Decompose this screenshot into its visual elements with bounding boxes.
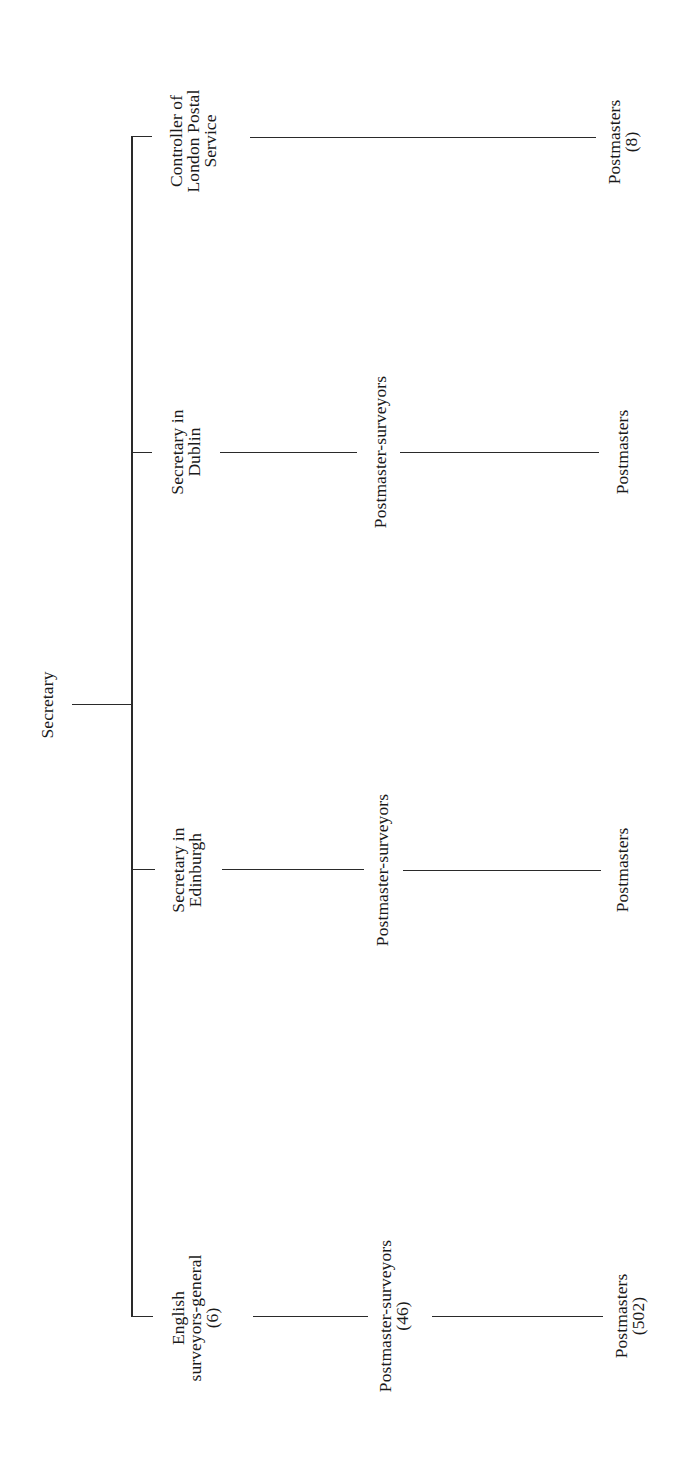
node-english-surveyors-general: English surveyors-general (6) bbox=[170, 1254, 221, 1381]
node-secretary-edinburgh: Secretary in Edinburgh bbox=[170, 827, 204, 912]
node-postmaster-surveyors-dublin: Postmaster-surveyors bbox=[372, 376, 389, 528]
trunk-line bbox=[131, 136, 133, 1317]
connector-secretary-to-trunk bbox=[72, 704, 132, 705]
node-secretary: Secretary bbox=[39, 672, 56, 739]
node-line: Service bbox=[202, 90, 219, 193]
connector-edinburgh-to-surveyors bbox=[222, 869, 364, 870]
node-postmasters-english: Postmasters (502) bbox=[613, 1274, 647, 1359]
node-line: Postmaster-surveyors bbox=[372, 376, 389, 528]
tick-edinburgh bbox=[131, 869, 155, 870]
node-line: Postmaster-surveyors bbox=[374, 794, 391, 946]
connector-dublin-surveyors-to-postmasters bbox=[400, 452, 599, 453]
node-postmaster-surveyors-edinburgh: Postmaster-surveyors bbox=[374, 794, 391, 946]
node-line: (46) bbox=[394, 1240, 411, 1392]
connector-dublin-to-surveyors bbox=[220, 452, 357, 453]
connector-london-to-postmasters bbox=[250, 137, 596, 138]
node-secretary-dublin: Secretary in Dublin bbox=[169, 409, 203, 494]
org-chart-diagram: Secretary Controller of London Postal Se… bbox=[0, 0, 697, 1459]
node-line: Postmasters bbox=[614, 828, 631, 913]
tick-dublin bbox=[131, 452, 152, 453]
node-line: Postmasters bbox=[614, 410, 631, 495]
tick-london bbox=[131, 136, 152, 137]
node-controller-london: Controller of London Postal Service bbox=[168, 90, 219, 193]
connector-english-to-surveyors bbox=[253, 1316, 368, 1317]
node-line: (8) bbox=[623, 100, 640, 185]
node-secretary-label: Secretary bbox=[39, 672, 56, 739]
node-postmaster-surveyors-english: Postmaster-surveyors (46) bbox=[377, 1240, 411, 1392]
node-line: Dublin bbox=[186, 409, 203, 494]
node-postmasters-london: Postmasters (8) bbox=[606, 100, 640, 185]
connector-edinburgh-surveyors-to-postmasters bbox=[403, 870, 601, 871]
connector-english-surveyors-to-postmasters bbox=[432, 1316, 603, 1317]
tick-english bbox=[131, 1316, 153, 1317]
node-line: (502) bbox=[630, 1274, 647, 1359]
node-postmasters-edinburgh: Postmasters bbox=[614, 828, 631, 913]
node-line: (6) bbox=[204, 1254, 221, 1381]
node-postmasters-dublin: Postmasters bbox=[614, 410, 631, 495]
node-line: Edinburgh bbox=[187, 827, 204, 912]
